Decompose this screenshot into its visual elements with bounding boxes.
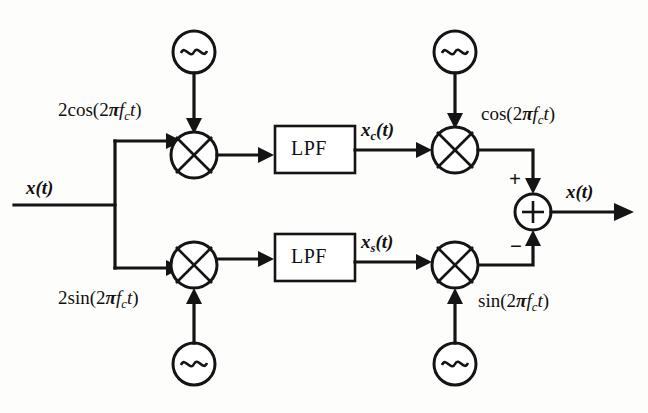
mixer-lower-right: [432, 242, 478, 288]
wire-upper-mixer-to-lpf: [217, 147, 274, 163]
wire-lower-lpf-to-mixer: [355, 254, 432, 270]
mixer-upper-left: [171, 132, 217, 178]
upper-lpf-label: LPF: [291, 138, 327, 158]
mixer-lower-left: [171, 242, 217, 288]
diagram-canvas: x(t) 2cos(2πfct) 2sin(2πfct) LPF LPF xc(…: [0, 0, 648, 413]
lower-lpf-label: LPF: [291, 246, 327, 266]
block-diagram-svg: [0, 0, 648, 413]
wire-lower-mixer-to-lpf: [217, 251, 274, 267]
lower-filter-output-label: xs(t): [361, 232, 393, 254]
input-trunk: [14, 141, 166, 268]
oscillator-upper-right: [434, 31, 476, 129]
summer-plus-sign: +: [509, 169, 521, 190]
upper-remod-carrier-label: cos(2πfct): [481, 104, 555, 127]
output-signal-label: x(t): [566, 182, 593, 201]
mixer-upper-right: [432, 127, 478, 173]
upper-oscillator-label: 2cos(2πfct): [58, 100, 142, 123]
summer-node: [515, 194, 551, 230]
lower-remod-carrier-label: sin(2πfct): [478, 291, 549, 314]
oscillator-upper-left: [173, 31, 215, 134]
oscillator-lower-right: [434, 288, 476, 385]
upper-filter-output-label: xc(t): [361, 120, 394, 142]
lower-oscillator-label: 2sin(2πfct): [58, 288, 139, 311]
oscillator-lower-left: [173, 288, 215, 385]
wire-summer-output: [551, 203, 634, 221]
input-signal-label: x(t): [26, 178, 53, 197]
wire-upper-lpf-to-mixer: [355, 142, 432, 158]
summer-minus-sign: −: [510, 236, 522, 257]
